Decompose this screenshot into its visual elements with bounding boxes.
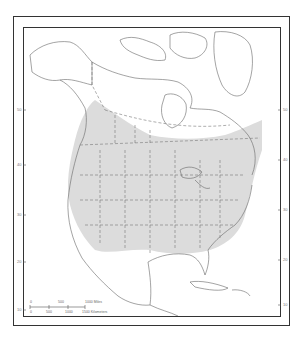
scale-km-500: 500: [46, 310, 52, 314]
latitude-label: 30: [283, 207, 287, 212]
latitude-label: 40: [17, 162, 21, 167]
scale-km-0: 0: [30, 310, 32, 314]
latitude-label: 10: [283, 302, 287, 307]
scale-km-1500: 1500 Kilometers: [82, 310, 107, 314]
latitude-label: 40: [283, 157, 287, 162]
latitude-label: 20: [283, 257, 287, 262]
scale-miles-0: 0: [30, 300, 32, 304]
north-america-map: [0, 0, 301, 340]
latitude-label: 10: [17, 307, 21, 312]
latitude-label: 50: [283, 107, 287, 112]
scale-km-1000: 1000: [65, 310, 73, 314]
scale-labels: 0 500 1000 Miles 0 500 1000 1500 Kilomet…: [30, 299, 110, 315]
latitude-label: 30: [17, 212, 21, 217]
scale-miles-1000: 1000 Miles: [85, 300, 102, 304]
range-shading: [68, 100, 262, 254]
latitude-label: 20: [17, 259, 21, 264]
latitude-label: 50: [17, 107, 21, 112]
scale-miles-500: 500: [58, 300, 64, 304]
